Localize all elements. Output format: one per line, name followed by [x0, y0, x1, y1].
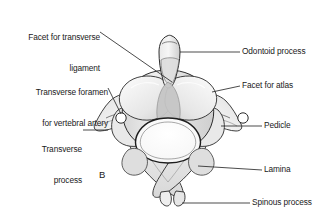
- spinous-process-second-tubercle: [174, 191, 185, 206]
- label-spinous-process: Spinous process: [252, 197, 312, 207]
- leader-facet-for-atlas: [212, 86, 240, 92]
- label-transverse-process: Transverse process: [14, 124, 82, 206]
- label-facet-for-atlas: Facet for atlas: [242, 80, 293, 90]
- panel-letter: B: [99, 169, 105, 180]
- inferior-mass-left: [122, 148, 148, 175]
- label-pedicle: Pedicle: [264, 120, 291, 130]
- inferior-mass-right: [189, 148, 215, 175]
- label-transverse-process-line1: Transverse: [14, 144, 82, 154]
- vertebra-body-group: [94, 35, 248, 206]
- anatomy-figure: Facet for transverse ligament Transverse…: [0, 0, 336, 218]
- label-transverse-foramen-line1: Transverse foramen: [4, 87, 108, 97]
- label-odontoid-process: Odontoid process: [242, 46, 305, 56]
- label-lamina: Lamina: [264, 164, 291, 174]
- transverse-foramen-left: [116, 113, 126, 123]
- transverse-foramen-right: [238, 113, 248, 123]
- spinous-process: [160, 191, 171, 206]
- label-transverse-process-line2: process: [14, 175, 82, 185]
- label-facet-for-transverse-ligament-line1: Facet for transverse: [6, 32, 100, 42]
